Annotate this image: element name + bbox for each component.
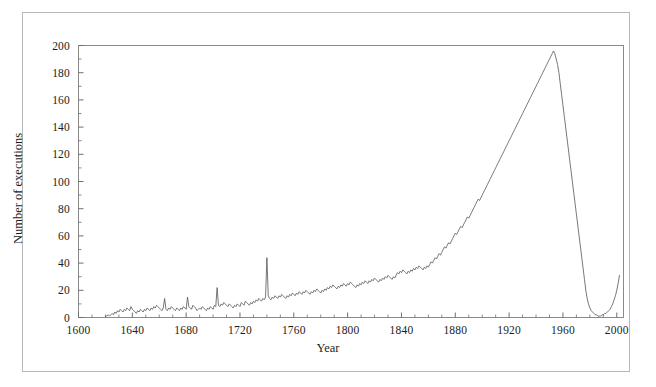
x-tick-label: 1680 bbox=[174, 324, 198, 336]
chart-figure: 0204060801001201401601802001600164016801… bbox=[0, 0, 656, 387]
y-tick-label: 180 bbox=[38, 67, 70, 79]
x-tick-label: 1640 bbox=[120, 324, 144, 336]
y-axis-label: Number of executions bbox=[11, 109, 26, 269]
x-tick-label: 1760 bbox=[282, 324, 306, 336]
x-axis-label: Year bbox=[0, 341, 656, 356]
y-tick-label: 200 bbox=[38, 40, 70, 52]
plot-frame bbox=[79, 46, 624, 318]
x-tick-label: 1720 bbox=[228, 324, 252, 336]
x-tick-label: 1960 bbox=[551, 324, 575, 336]
y-tick-label: 100 bbox=[38, 176, 70, 188]
y-tick-label: 40 bbox=[38, 257, 70, 269]
x-tick-label: 2000 bbox=[605, 324, 629, 336]
y-tick-label: 60 bbox=[38, 230, 70, 242]
x-tick-label: 1920 bbox=[497, 324, 521, 336]
y-tick-label: 160 bbox=[38, 94, 70, 106]
x-tick-label: 1800 bbox=[336, 324, 360, 336]
y-tick-label: 0 bbox=[38, 312, 70, 324]
x-tick-label: 1840 bbox=[390, 324, 414, 336]
y-tick-label: 80 bbox=[38, 203, 70, 215]
y-tick-label: 140 bbox=[38, 121, 70, 133]
x-tick-label: 1880 bbox=[443, 324, 467, 336]
x-tick-label: 1600 bbox=[67, 324, 91, 336]
y-tick-label: 20 bbox=[38, 284, 70, 296]
y-tick-label: 120 bbox=[38, 148, 70, 160]
